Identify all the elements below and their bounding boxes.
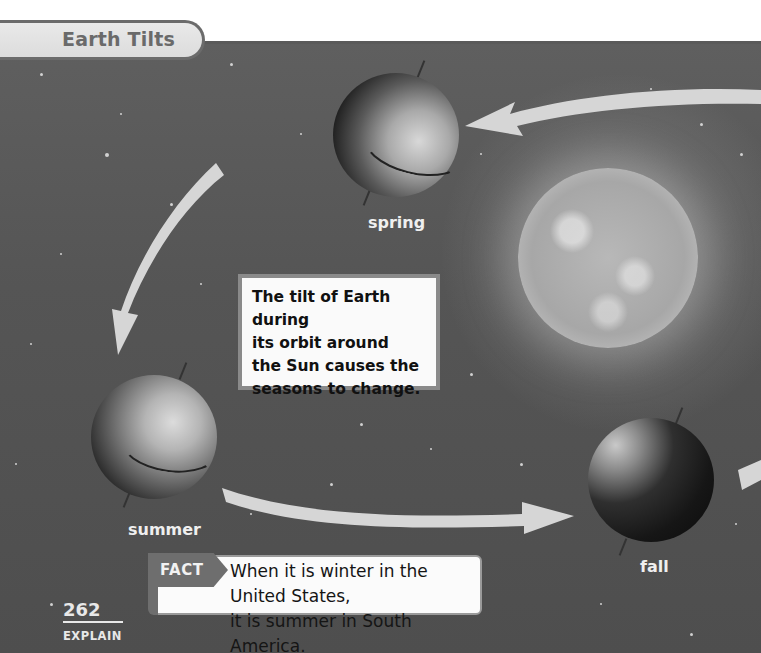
star	[15, 463, 17, 465]
star	[600, 603, 602, 605]
season-label-fall: fall	[640, 557, 669, 576]
fact-box: FACT When it is winter in the United Sta…	[150, 555, 482, 615]
star	[740, 153, 743, 156]
star	[690, 633, 693, 636]
star	[30, 343, 32, 345]
star	[50, 603, 53, 606]
orbit-arrow-left	[112, 163, 224, 358]
section-label: EXPLAIN	[63, 629, 122, 643]
page-footer: 262 EXPLAIN	[63, 600, 123, 644]
star	[470, 373, 473, 376]
page-title: Earth Tilts	[62, 28, 175, 50]
title-tab: Earth Tilts	[0, 20, 205, 60]
star	[330, 483, 333, 486]
fact-text: When it is winter in the United States, …	[230, 559, 482, 653]
page-number: 262	[63, 600, 123, 620]
star	[360, 423, 363, 426]
callout-box: The tilt of Earth during its orbit aroun…	[238, 274, 440, 390]
star	[40, 73, 43, 76]
star	[120, 113, 122, 115]
star	[60, 253, 62, 255]
fact-tag-edge	[148, 587, 158, 615]
star	[520, 463, 523, 466]
orbit-arrow-top	[465, 68, 761, 138]
orbit-arrow-right-edge	[738, 460, 761, 490]
sun-image	[518, 168, 698, 348]
star	[300, 133, 302, 135]
star	[735, 523, 737, 525]
star	[430, 448, 432, 450]
fact-label: FACT	[160, 561, 203, 579]
star	[105, 153, 109, 157]
callout-text: The tilt of Earth during its orbit aroun…	[252, 286, 428, 401]
page-number-rule	[63, 621, 123, 623]
star	[480, 153, 482, 155]
orbit-arrow-bottom	[222, 488, 574, 536]
season-label-summer: summer	[128, 520, 201, 539]
earth-fall-image	[588, 418, 714, 542]
season-label-spring: spring	[368, 213, 425, 232]
star	[230, 63, 233, 66]
